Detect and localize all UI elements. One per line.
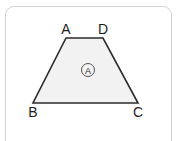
vertex-label-b: B: [28, 104, 37, 120]
screenshot-root: A D B C A: [0, 0, 180, 141]
trapezoid-figure: A D B C A: [0, 0, 180, 141]
vertex-label-a: A: [61, 21, 71, 37]
trapezoid-svg: A D B C A: [0, 0, 180, 141]
area-marker-label: A: [85, 66, 91, 76]
vertex-label-d: D: [98, 21, 108, 37]
vertex-label-c: C: [133, 104, 143, 120]
